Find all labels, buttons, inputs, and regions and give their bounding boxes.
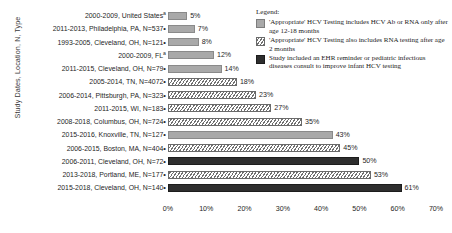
bar-value-label: 12% [217,51,231,59]
bar-container: 45% [168,144,357,152]
footnote-marker-a: a [163,10,166,16]
bar-category-label: 2015-2018, Cleveland, OH, N=140• [0,183,166,192]
bar-row: 2006-2011, Cleveland, OH, N=72•50% [0,155,452,168]
bar-category-label: 2015-2016, Knoxville, TN, N=127• [0,130,166,139]
bar-container: 50% [168,157,377,165]
category-bullet-marker: • [163,37,166,46]
bar [168,38,199,46]
legend-item-label: Study included an EHR reminder or pediat… [269,54,448,71]
legend-swatch-hatch [256,37,265,46]
bar-row: 2006-2015, Boston, MA, N=404•45% [0,142,452,155]
category-bullet-marker: • [163,183,166,192]
bar-container: 12% [168,51,231,59]
category-text: 2015-2018, Cleveland, OH, N=140 [57,184,163,191]
bar [168,91,256,99]
x-axis-tick-label: 70% [429,205,443,213]
x-axis: 0%10%20%30%40%50%60%70% [168,205,436,221]
category-text: 2000-2009, FL [118,52,163,59]
bar-category-label: 2006-2015, Boston, MA, N=404• [0,144,166,153]
x-axis-tick-label: 0% [163,205,173,213]
bar-category-label: 2000-2009, FLa [0,51,166,60]
bar-row: 2011-2015, WI, N=183•27% [0,102,452,115]
legend-item: Study included an EHR reminder or pediat… [256,54,448,71]
x-axis-tick-label: 10% [199,205,213,213]
bar-category-label: 2013-2018, Portland, ME, N=177• [0,170,166,179]
footnote-marker-a: a [163,50,166,56]
bar-value-label: 14% [225,65,239,73]
bar-row: 2013-2018, Portland, ME, N=177•53% [0,168,452,181]
category-text: 2006-2014, Pittsburgh, PA, N=323 [59,92,164,99]
bar [168,104,271,112]
bar-row: 2008-2018, Columbus, OH, N=724•35% [0,115,452,128]
bar-value-label: 43% [336,131,350,139]
bar-value-label: 23% [259,91,273,99]
category-text: 2013-2018, Portland, ME, N=177 [62,171,163,178]
bar [168,25,195,33]
legend-title: Legend: [256,8,448,16]
bar-category-label: 2011-2013, Philadelphia, PA, N=537• [0,24,166,33]
legend-swatch-solid-dark [256,55,265,64]
category-text: 2011-2013, Philadelphia, PA, N=537 [53,25,164,32]
category-text: 2015-2016, Knoxville, TN, N=127 [62,131,164,138]
bar-value-label: 35% [305,118,319,126]
legend-item-list: 'Appropriate' HCV Testing includes HCV A… [256,18,448,70]
bar-category-label: 2011-2015, WI, N=183• [0,104,166,113]
bar-container: 35% [168,118,319,126]
category-bullet-marker: • [163,64,166,73]
bar [168,144,340,152]
bar-value-label: 61% [405,184,419,192]
bar-row: 2005-2014, TN, N=4072•18% [0,75,452,88]
bar [168,118,302,126]
category-bullet-marker: • [163,143,166,152]
bar-value-label: 5% [190,12,200,20]
bar-value-label: 53% [374,171,388,179]
legend-item: 'Appropriate' HCV Testing includes HCV A… [256,18,448,35]
bar-category-label: 2011-2015, Cleveland, OH, N=79• [0,64,166,73]
category-bullet-marker: • [163,103,166,112]
bar-category-label: 2000-2009, United Statesa [0,11,166,20]
bar-value-label: 50% [362,157,376,165]
category-bullet-marker: • [163,24,166,33]
bar [168,51,214,59]
bar-container: 61% [168,184,419,192]
bar [168,65,222,73]
bar-category-label: 2006-2014, Pittsburgh, PA, N=323• [0,91,166,100]
bar-container: 14% [168,65,239,73]
bar [168,12,187,20]
category-bullet-marker: • [163,117,166,126]
bar-category-label: 1993-2005, Cleveland, OH, N=121• [0,38,166,47]
bar-category-label: 2008-2018, Columbus, OH, N=724• [0,117,166,126]
category-text: 2008-2018, Columbus, OH, N=724 [57,118,163,125]
bar [168,131,333,139]
bar-value-label: 8% [202,38,212,46]
category-text: 2006-2011, Cleveland, OH, N=72 [62,158,164,165]
bar-value-label: 45% [343,144,357,152]
bar-container: 18% [168,78,254,86]
x-axis-tick-label: 50% [352,205,366,213]
x-axis-tick-label: 20% [237,205,251,213]
legend-swatch-solid-light [256,19,265,28]
category-text: 2000-2009, United States [85,12,163,19]
category-bullet-marker: • [163,90,166,99]
bar-row: 2006-2014, Pittsburgh, PA, N=323•23% [0,89,452,102]
category-text: 2011-2015, Cleveland, OH, N=79 [62,65,164,72]
x-axis-tick-label: 40% [314,205,328,213]
legend-item-label: 'Appropriate' HCV Testing includes HCV A… [269,18,448,35]
category-text: 2005-2014, TN, N=4072 [89,78,163,85]
legend-item: 'Appropriate' HCV Testing also includes … [256,36,448,53]
x-axis-tick-label: 30% [276,205,290,213]
chart-legend: Legend: 'Appropriate' HCV Testing includ… [256,8,448,72]
category-bullet-marker: • [163,170,166,179]
bar-row: 2015-2018, Cleveland, OH, N=140•61% [0,181,452,194]
bar-container: 27% [168,104,289,112]
category-bullet-marker: • [163,77,166,86]
x-axis-tick-label: 60% [391,205,405,213]
bar-container: 43% [168,131,350,139]
category-text: 1993-2005, Cleveland, OH, N=121 [57,39,163,46]
bar-row: 2015-2016, Knoxville, TN, N=127•43% [0,128,452,141]
category-text: 2006-2015, Boston, MA, N=404 [67,145,164,152]
bar-category-label: 2006-2011, Cleveland, OH, N=72• [0,157,166,166]
bar-container: 5% [168,12,200,20]
bar-container: 8% [168,38,212,46]
bar-category-label: 2005-2014, TN, N=4072• [0,77,166,86]
